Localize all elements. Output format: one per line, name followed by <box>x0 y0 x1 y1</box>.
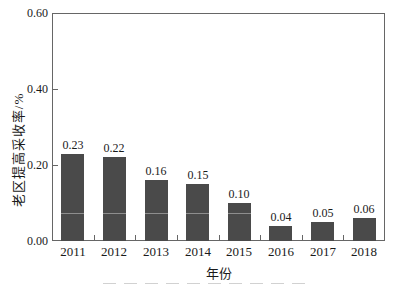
x-tick-label: 2011 <box>51 245 95 259</box>
bar-value-label: 0.06 <box>342 203 386 216</box>
y-tick-mark <box>53 89 58 90</box>
x-tick-label: 2013 <box>134 245 178 259</box>
x-tick-mark <box>135 235 136 240</box>
x-tick-mark <box>219 235 220 240</box>
x-tick-label: 2012 <box>92 245 136 259</box>
bar <box>353 218 376 241</box>
x-tick-mark <box>94 235 95 240</box>
y-axis-title: 老区提高采收率/% <box>8 93 27 207</box>
page-artifact-line <box>103 283 313 284</box>
x-tick-label: 2014 <box>176 245 220 259</box>
x-tick-mark <box>177 235 178 240</box>
y-tick-mark <box>53 165 58 166</box>
x-tick-label: 2015 <box>217 245 261 259</box>
bar <box>61 154 84 241</box>
x-tick-mark <box>343 235 344 240</box>
bar-value-label: 0.22 <box>92 142 136 155</box>
bar-value-label: 0.05 <box>301 207 345 220</box>
bar-value-label: 0.23 <box>51 139 95 152</box>
bar <box>228 203 251 241</box>
bar <box>145 180 168 241</box>
bar-value-label: 0.15 <box>176 169 220 182</box>
x-tick-mark <box>302 235 303 240</box>
x-tick-label: 2017 <box>301 245 345 259</box>
bar-value-label: 0.16 <box>134 165 178 178</box>
y-tick-label: 0.00 <box>14 234 48 249</box>
bar-value-label: 0.04 <box>259 211 303 224</box>
bar <box>269 226 292 241</box>
x-tick-label: 2016 <box>259 245 303 259</box>
bar <box>103 157 126 241</box>
bar <box>311 222 334 241</box>
bar-chart-figure: 0.000.200.400.600.2320110.2220120.162013… <box>0 0 399 285</box>
x-tick-mark <box>260 235 261 240</box>
x-axis-title: 年份 <box>52 263 385 282</box>
bar-value-label: 0.10 <box>217 188 261 201</box>
x-tick-label: 2018 <box>342 245 386 259</box>
y-tick-label: 0.60 <box>14 6 48 21</box>
